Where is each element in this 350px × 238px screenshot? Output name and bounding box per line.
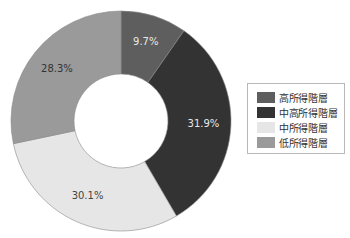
slice-percent-label: 28.3% bbox=[41, 63, 73, 74]
legend-label: 中高所得階層 bbox=[279, 105, 337, 120]
legend-swatch bbox=[257, 122, 275, 133]
legend-swatch bbox=[257, 107, 275, 118]
legend-label: 低所得階層 bbox=[279, 135, 328, 150]
donut-slice bbox=[11, 11, 121, 144]
legend-item-high-income: 高所得階層 bbox=[257, 90, 328, 104]
slice-percent-label: 9.7% bbox=[133, 36, 158, 47]
slice-percent-label: 30.1% bbox=[72, 190, 104, 201]
slice-percent-label: 31.9% bbox=[188, 118, 220, 129]
legend-swatch bbox=[257, 137, 275, 148]
donut-slice bbox=[13, 131, 176, 231]
legend-swatch bbox=[257, 92, 275, 103]
legend-item-middle-income: 中所得階層 bbox=[257, 120, 328, 134]
legend-item-low-income: 低所得階層 bbox=[257, 135, 328, 149]
legend-label: 中所得階層 bbox=[279, 120, 328, 135]
legend-label: 高所得階層 bbox=[279, 90, 328, 105]
chart-legend: 高所得階層 中高所得階層 中所得階層 低所得階層 bbox=[247, 83, 345, 154]
legend-item-upper-middle-income: 中高所得階層 bbox=[257, 105, 337, 119]
